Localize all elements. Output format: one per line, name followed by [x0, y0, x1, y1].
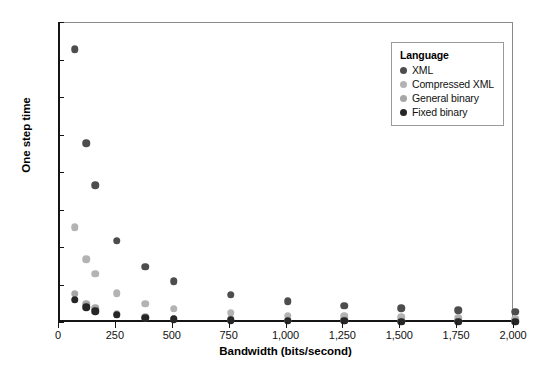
- x-axis-tick: [115, 322, 116, 328]
- scatter-point: [82, 139, 90, 147]
- legend-item-compressed-xml[interactable]: Compressed XML: [400, 77, 495, 91]
- x-axis-tick: [513, 322, 514, 328]
- scatter-point: [454, 307, 462, 315]
- scatter-point: [82, 304, 90, 312]
- y-axis-tick: [58, 172, 64, 173]
- y-axis-tick: [58, 97, 64, 98]
- scatter-point: [170, 277, 178, 285]
- scatter-point: [398, 304, 406, 312]
- scatter-point: [113, 289, 121, 297]
- y-axis-tick: [58, 22, 64, 23]
- scatter-point: [227, 291, 235, 299]
- scatter-point: [82, 256, 90, 264]
- scatter-point: [113, 237, 121, 245]
- legend-marker-icon: [400, 67, 407, 74]
- x-axis-tick-label: 1,000: [256, 329, 316, 341]
- y-axis-title: One step time: [20, 65, 32, 205]
- scatter-point: [170, 305, 178, 313]
- legend-marker-icon: [400, 95, 407, 102]
- scatter-point: [113, 311, 121, 319]
- scatter-point: [511, 308, 519, 316]
- legend: Language XMLCompressed XMLGeneral binary…: [391, 42, 504, 126]
- x-axis-tick-label: 0: [28, 329, 88, 341]
- scatter-point: [284, 298, 292, 306]
- scatter-point: [142, 300, 150, 308]
- x-axis-tick-label: 500: [142, 329, 202, 341]
- scatter-point: [71, 46, 79, 54]
- x-axis-tick: [399, 322, 400, 328]
- legend-item-xml[interactable]: XML: [400, 63, 495, 77]
- x-axis-title: Bandwidth (bits/second): [58, 345, 513, 357]
- x-axis-tick: [286, 322, 287, 328]
- x-axis-tick-label: 750: [199, 329, 259, 341]
- x-axis-tick-label: 2,000: [483, 329, 543, 341]
- x-axis-tick: [58, 322, 59, 328]
- y-axis-tick: [58, 285, 64, 286]
- x-axis-tick: [456, 322, 457, 328]
- x-axis-tick-label: 1,750: [426, 329, 486, 341]
- y-axis-tick: [58, 247, 64, 248]
- legend-marker-icon: [400, 81, 407, 88]
- legend-item-label: Compressed XML: [412, 78, 494, 90]
- legend-title: Language: [400, 49, 495, 61]
- scatter-point: [92, 307, 100, 315]
- legend-entries: XMLCompressed XMLGeneral binaryFixed bin…: [400, 63, 495, 119]
- x-axis-tick: [229, 322, 230, 328]
- x-axis-tick-label: 1,500: [369, 329, 429, 341]
- y-axis-tick: [58, 60, 64, 61]
- x-axis-tick-label: 1,250: [312, 329, 372, 341]
- scatter-point: [92, 181, 100, 189]
- x-axis-tick: [172, 322, 173, 328]
- scatter-point: [142, 314, 150, 322]
- y-axis-tick: [58, 210, 64, 211]
- chart-figure: 0510152025303540 02505007501,0001,2501,5…: [0, 0, 545, 367]
- y-axis-tick: [58, 135, 64, 136]
- legend-item-fixed-binary[interactable]: Fixed binary: [400, 105, 495, 119]
- scatter-point: [71, 296, 79, 304]
- scatter-point: [142, 263, 150, 271]
- legend-marker-icon: [400, 109, 407, 116]
- scatter-point: [71, 223, 79, 231]
- scatter-point: [341, 302, 349, 310]
- x-axis-tick-label: 250: [85, 329, 145, 341]
- x-axis-tick: [342, 322, 343, 328]
- scatter-point: [92, 270, 100, 278]
- legend-item-general-binary[interactable]: General binary: [400, 91, 495, 105]
- legend-item-label: General binary: [412, 92, 479, 104]
- legend-item-label: Fixed binary: [412, 106, 467, 118]
- legend-item-label: XML: [412, 64, 433, 76]
